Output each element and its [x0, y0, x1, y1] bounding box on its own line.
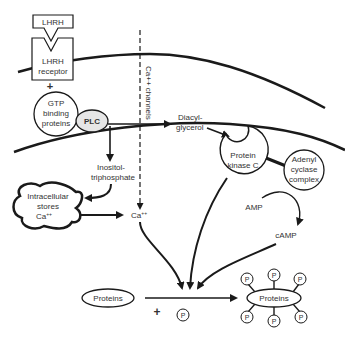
gtp-binding-proteins: GTP binding proteins	[34, 92, 78, 136]
ca-channels-label: Ca++ channels	[144, 66, 153, 120]
svg-text:proteins: proteins	[42, 119, 70, 128]
ligand-label: LHRH	[42, 18, 64, 27]
svg-text:Proteins: Proteins	[259, 294, 288, 303]
intracellular-ca-stores: Intracellular stores Ca++	[14, 183, 83, 229]
proteins-input: Proteins	[82, 289, 134, 307]
arrow-pkc-to-reaction	[190, 178, 227, 288]
phosphate-p: P	[298, 276, 303, 283]
svg-text:+: +	[153, 305, 160, 319]
ca-label: Ca++	[131, 210, 147, 220]
svg-text:Diacyl-: Diacyl-	[178, 113, 203, 122]
phosphate-p: P	[245, 276, 250, 283]
lhrh-ligand: LHRH	[33, 15, 73, 41]
svg-text:GTP: GTP	[48, 99, 64, 108]
svg-text:Inositol-: Inositol-	[97, 163, 125, 172]
svg-text:receptor: receptor	[38, 67, 68, 76]
arrow-camp-to-reaction	[198, 244, 276, 288]
svg-text:Intracellular: Intracellular	[27, 192, 69, 201]
svg-text:LHRH: LHRH	[42, 57, 64, 66]
adenyl-cyclase-complex: Adenyl cyclase complex	[284, 150, 324, 190]
svg-text:Proteins: Proteins	[93, 294, 122, 303]
phosphate-p: P	[272, 272, 277, 279]
svg-text:Protein: Protein	[230, 151, 255, 160]
phosphorylated-proteins: Proteins P P P P P P	[241, 269, 307, 327]
svg-text:kinase C: kinase C	[227, 161, 258, 170]
svg-text:Adenyl: Adenyl	[292, 155, 317, 164]
lhrh-receptor: LHRH receptor	[32, 38, 73, 80]
svg-text:cyclase: cyclase	[291, 165, 318, 174]
arrow-ca-to-reaction	[140, 222, 182, 288]
arrow-amp-to-camp	[262, 192, 300, 224]
phosphate-p: P	[245, 314, 250, 321]
svg-text:complex: complex	[289, 175, 319, 184]
svg-text:PLC: PLC	[84, 117, 100, 126]
protein-kinase-c: Protein kinase C	[220, 126, 268, 174]
amp-label: AMP	[245, 203, 262, 212]
phosphate-input: P	[177, 309, 189, 321]
svg-text:P: P	[181, 312, 186, 319]
svg-text:triphosphate: triphosphate	[91, 173, 136, 182]
plus-sign: +	[47, 80, 53, 92]
plc-node: PLC	[76, 110, 108, 132]
svg-text:stores: stores	[37, 202, 59, 211]
signaling-pathway-diagram: LHRH LHRH receptor + GTP binding protein…	[0, 0, 345, 338]
phosphate-p: P	[272, 318, 277, 325]
phosphate-p: P	[299, 314, 304, 321]
arrow-ip3-to-stores	[86, 184, 111, 198]
svg-text:binding: binding	[43, 109, 69, 118]
svg-text:glycerol: glycerol	[176, 123, 204, 132]
camp-label: cAMP	[275, 231, 296, 240]
link-pkc-adenyl	[266, 158, 286, 166]
